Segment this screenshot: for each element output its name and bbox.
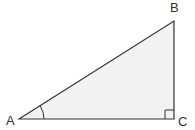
vertex-label-c: C xyxy=(178,114,187,129)
vertex-label-b: B xyxy=(170,0,179,15)
triangle-abc xyxy=(19,21,174,119)
right-triangle-diagram: A B C xyxy=(0,0,195,130)
vertex-label-a: A xyxy=(6,113,15,128)
